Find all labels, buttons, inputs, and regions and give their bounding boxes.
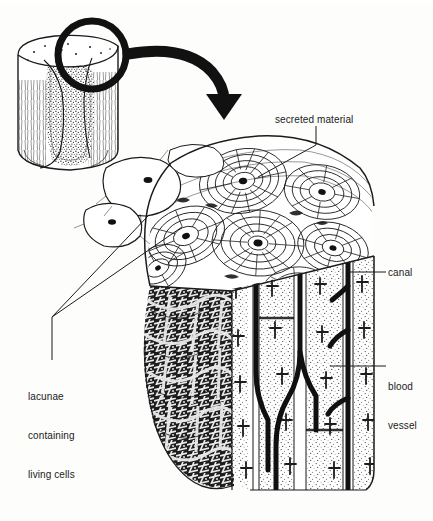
label-blood-vessel-line-2: vessel [388,419,417,432]
top-crop-mask [0,0,433,7]
label-blood-vessel-line-1: blood [388,380,417,393]
label-lacunae-line-2: containing [28,429,75,442]
spongy-bone-region [140,280,240,495]
label-secreted-material: secreted material [275,113,353,126]
label-blood-vessel: blood vessel [388,354,417,458]
figure-canvas: SKELETAL SYSTEM secreted material canal … [0,0,433,521]
inset-bone-section [10,28,130,178]
label-lacunae: lacunae containing living cells [28,364,75,507]
magnification-arrow [128,51,242,120]
label-lacunae-line-3: living cells [28,468,75,481]
label-canal: canal [388,266,412,279]
compact-bone-block [74,125,385,495]
label-lacunae-line-1: lacunae [28,390,75,403]
